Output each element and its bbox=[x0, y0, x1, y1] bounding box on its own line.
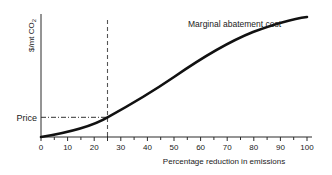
chart-figure: 0 10 20 30 40 50 60 70 80 90 100 Percent… bbox=[0, 0, 332, 175]
x-tick-label: 10 bbox=[63, 143, 72, 152]
curve-annotation-label: Marginal abatement cost bbox=[188, 19, 282, 29]
x-axis-tick-labels: 0 10 20 30 40 50 60 70 80 90 100 bbox=[39, 143, 314, 152]
x-tick-label: 90 bbox=[276, 143, 285, 152]
x-tick-label: 20 bbox=[90, 143, 99, 152]
chart-plot-area: 0 10 20 30 40 50 60 70 80 90 100 Percent… bbox=[0, 0, 332, 175]
y-axis-title-base: $/mt CO bbox=[27, 22, 36, 52]
x-tick-label: 50 bbox=[170, 143, 179, 152]
price-axis-label: Price bbox=[16, 113, 37, 123]
x-tick-label: 80 bbox=[249, 143, 258, 152]
x-tick-label: 70 bbox=[223, 143, 232, 152]
x-tick-label: 40 bbox=[143, 143, 152, 152]
marginal-abatement-cost-curve bbox=[41, 17, 307, 137]
x-axis-title: Percentage reduction in emissions bbox=[163, 157, 285, 166]
x-tick-label: 60 bbox=[196, 143, 205, 152]
x-tick-label: 0 bbox=[39, 143, 44, 152]
y-axis-title-subscript: 2 bbox=[31, 18, 37, 22]
x-tick-label: 100 bbox=[300, 143, 314, 152]
x-tick-label: 30 bbox=[116, 143, 125, 152]
y-axis-title: $/mt CO2 bbox=[27, 18, 37, 52]
svg-text:$/mt CO2: $/mt CO2 bbox=[27, 18, 37, 52]
